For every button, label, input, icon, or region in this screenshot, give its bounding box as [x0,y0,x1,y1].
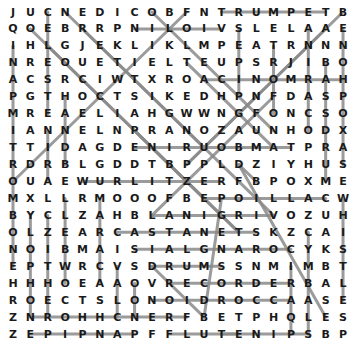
letter-cell[interactable]: B [5,207,22,224]
letter-cell[interactable]: W [57,258,74,275]
letter-cell[interactable]: J [5,4,22,21]
letter-cell[interactable]: W [335,190,352,207]
letter-cell[interactable]: Z [178,173,195,190]
letter-cell[interactable]: B [178,190,195,207]
letter-cell[interactable]: G [196,241,213,258]
letter-cell[interactable]: W [109,71,126,88]
letter-cell[interactable]: D [91,4,108,21]
letter-cell[interactable]: R [143,122,160,139]
letter-cell[interactable]: D [57,139,74,156]
letter-cell[interactable]: Z [213,122,230,139]
letter-cell[interactable]: G [91,139,108,156]
letter-cell[interactable]: F [143,326,160,343]
letter-cell[interactable]: T [282,139,299,156]
letter-cell[interactable]: U [248,122,265,139]
letter-cell[interactable]: P [178,156,195,173]
letter-cell[interactable]: S [335,156,352,173]
letter-cell[interactable]: E [143,309,160,326]
letter-cell[interactable]: K [109,37,126,54]
letter-cell[interactable]: L [178,37,195,54]
letter-cell[interactable]: Q [282,309,299,326]
letter-cell[interactable]: N [22,309,39,326]
letter-cell[interactable]: I [39,139,56,156]
letter-cell[interactable]: Z [5,326,22,343]
letter-cell[interactable]: H [57,88,74,105]
letter-cell[interactable]: V [143,275,160,292]
letter-cell[interactable]: R [282,37,299,54]
letter-cell[interactable]: P [282,326,299,343]
letter-cell[interactable]: Q [5,20,22,37]
letter-cell[interactable]: N [213,241,230,258]
letter-cell[interactable]: G [230,105,247,122]
letter-cell[interactable]: N [196,4,213,21]
letter-cell[interactable]: L [126,37,143,54]
letter-cell[interactable]: E [74,105,91,122]
letter-cell[interactable]: U [213,54,230,71]
letter-cell[interactable]: T [126,71,143,88]
letter-cell[interactable]: T [213,4,230,21]
letter-cell[interactable]: O [22,20,39,37]
letter-cell[interactable]: I [230,71,247,88]
letter-cell[interactable]: E [196,54,213,71]
letter-cell[interactable]: R [22,105,39,122]
letter-cell[interactable]: C [109,224,126,241]
letter-cell[interactable]: X [335,122,352,139]
letter-cell[interactable]: O [57,309,74,326]
letter-cell[interactable]: A [282,292,299,309]
letter-cell[interactable]: B [335,4,352,21]
letter-cell[interactable]: A [317,275,334,292]
letter-cell[interactable]: A [22,122,39,139]
letter-cell[interactable]: T [230,309,247,326]
letter-cell[interactable]: A [300,20,317,37]
letter-cell[interactable]: E [213,224,230,241]
letter-cell[interactable]: P [300,139,317,156]
letter-cell[interactable]: H [109,207,126,224]
letter-cell[interactable]: D [282,88,299,105]
letter-cell[interactable]: S [248,224,265,241]
letter-cell[interactable]: A [317,20,334,37]
letter-cell[interactable]: S [335,309,352,326]
letter-cell[interactable]: I [5,122,22,139]
letter-cell[interactable]: A [300,190,317,207]
letter-cell[interactable]: O [126,292,143,309]
letter-cell[interactable]: R [39,309,56,326]
letter-cell[interactable]: I [91,71,108,88]
letter-cell[interactable]: B [161,156,178,173]
letter-cell[interactable]: E [265,275,282,292]
letter-cell[interactable]: D [109,156,126,173]
letter-cell[interactable]: O [230,190,247,207]
letter-cell[interactable]: S [126,241,143,258]
letter-cell[interactable]: M [74,241,91,258]
letter-cell[interactable]: I [143,37,160,54]
letter-cell[interactable]: U [317,207,334,224]
letter-cell[interactable]: O [5,173,22,190]
letter-cell[interactable]: K [317,241,334,258]
letter-cell[interactable]: R [213,292,230,309]
letter-cell[interactable]: L [282,20,299,37]
letter-cell[interactable]: R [248,241,265,258]
letter-cell[interactable]: V [213,20,230,37]
letter-cell[interactable]: L [57,190,74,207]
letter-cell[interactable]: E [213,309,230,326]
letter-cell[interactable]: I [196,20,213,37]
letter-cell[interactable]: T [39,88,56,105]
letter-cell[interactable]: Z [282,224,299,241]
letter-cell[interactable]: I [248,190,265,207]
letter-cell[interactable]: A [335,139,352,156]
letter-cell[interactable]: I [109,4,126,21]
letter-cell[interactable]: J [282,54,299,71]
letter-cell[interactable]: K [161,37,178,54]
letter-cell[interactable]: N [282,105,299,122]
letter-cell[interactable]: O [109,190,126,207]
letter-cell[interactable]: A [161,207,178,224]
letter-cell[interactable]: A [161,122,178,139]
letter-cell[interactable]: N [178,122,195,139]
letter-cell[interactable]: C [196,275,213,292]
letter-cell[interactable]: H [265,309,282,326]
letter-cell[interactable]: P [282,4,299,21]
letter-cell[interactable]: I [161,139,178,156]
letter-cell[interactable]: Z [74,207,91,224]
letter-cell[interactable]: O [178,71,195,88]
letter-cell[interactable]: S [248,54,265,71]
letter-cell[interactable]: N [39,122,56,139]
